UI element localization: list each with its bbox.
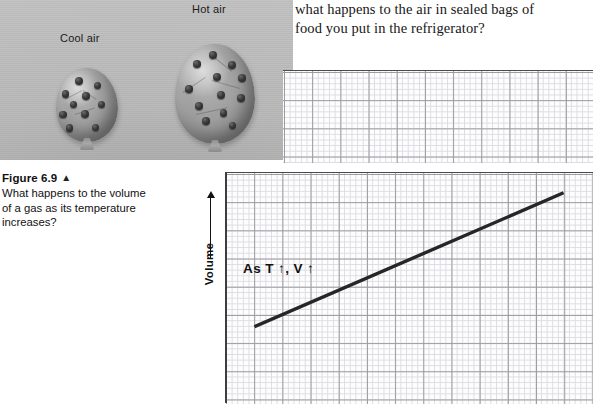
- gas-particle-dot: [82, 92, 90, 100]
- gas-particle-dot: [81, 110, 89, 118]
- figure-caption: Figure 6.9▲ What happens to the volume o…: [2, 172, 177, 230]
- cool-air-label: Cool air: [60, 32, 100, 44]
- up-triangle-icon: ▲: [61, 172, 71, 183]
- cool-air-balloon: [56, 68, 118, 142]
- refrigerator-question-text: what happens to the air in sealed bags o…: [295, 0, 593, 37]
- gas-particle-dot: [202, 117, 210, 125]
- hot-air-balloon: [175, 44, 255, 144]
- question-line-2: food you put in the refrigerator?: [295, 19, 593, 38]
- gas-particle-dot: [75, 77, 83, 85]
- gas-particle-dot: [98, 101, 105, 108]
- y-axis-label-group: Volume: [196, 196, 222, 316]
- gas-particle-dot: [220, 109, 228, 117]
- hot-air-label: Hot air: [192, 3, 226, 15]
- trend-line-path: [254, 193, 563, 327]
- gas-particle-dot: [195, 102, 203, 110]
- caption-line-1: What happens to the volume: [2, 186, 177, 201]
- volume-trend-line: [225, 172, 593, 403]
- gas-particle-dot: [185, 85, 193, 93]
- caption-line-2: of a gas as its temperature: [2, 201, 177, 216]
- balloon-photograph: Hot air Cool air: [0, 0, 293, 160]
- y-axis-label: Volume: [203, 228, 215, 300]
- balloon-body: [56, 68, 118, 142]
- gas-particle-dot: [237, 94, 245, 102]
- gas-particle-dot: [66, 124, 74, 132]
- gas-particle-dot: [59, 111, 67, 119]
- gas-particle-dot: [62, 90, 70, 98]
- gas-particle-dot: [228, 61, 236, 69]
- gas-particle-dot: [209, 51, 217, 59]
- gas-particle-dot: [213, 73, 221, 81]
- figure-caption-title: Figure 6.9▲: [2, 172, 177, 184]
- figure-number-label: Figure 6.9: [2, 172, 57, 184]
- chart-annotation: As T ↑, V ↑: [243, 261, 314, 276]
- gas-particle-dot: [229, 122, 236, 129]
- upper-graph-paper-grid: [283, 70, 593, 163]
- gas-particle-dot: [217, 91, 225, 99]
- gas-particle-dot: [238, 74, 246, 82]
- caption-line-3: increases?: [2, 215, 177, 230]
- gas-particle-dot: [193, 60, 201, 68]
- figure-caption-body: What happens to the volume of a gas as i…: [2, 186, 177, 230]
- gas-particle-dot: [94, 82, 101, 89]
- question-line-1: what happens to the air in sealed bags o…: [295, 0, 593, 19]
